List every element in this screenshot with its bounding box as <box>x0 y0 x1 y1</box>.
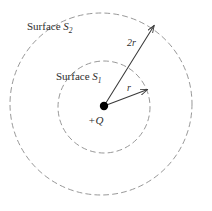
surface-s1-label: Surface S1 <box>56 71 102 85</box>
radius-arrow-r <box>104 90 148 106</box>
point-charge-dot <box>100 102 108 110</box>
surface-s2-word: Surface <box>27 20 61 32</box>
radius-2r-label: 2r <box>127 38 136 48</box>
surface-s2-label: Surface S2 <box>27 21 73 35</box>
surface-s1-word: Surface <box>56 70 90 82</box>
surface-s1-subscript: 1 <box>98 76 102 85</box>
charge-label: +Q <box>88 115 103 126</box>
gauss-law-figure: Surface S2 Surface S1 +Q r 2r <box>0 0 212 211</box>
radius-r-label: r <box>127 83 131 93</box>
surface-s2-subscript: 2 <box>69 26 73 35</box>
